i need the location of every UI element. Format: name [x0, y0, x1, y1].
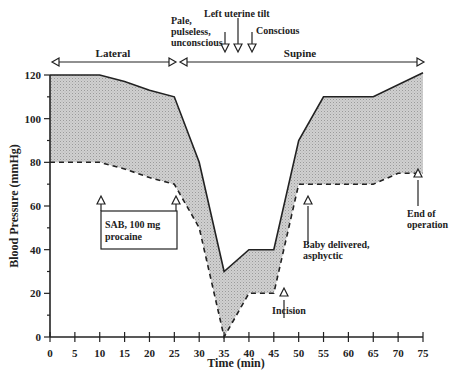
baby-label-2: asphyctic [303, 250, 344, 261]
conscious-label: Conscious [256, 25, 299, 36]
y-tick-label: 80 [30, 156, 42, 168]
x-tick-label: 65 [368, 347, 380, 359]
y-tick-label: 60 [30, 200, 42, 212]
y-tick-label: 40 [30, 244, 42, 256]
x-tick-label: 75 [418, 347, 430, 359]
x-tick-label: 0 [47, 347, 53, 359]
pale-label-3: unconscious [171, 37, 223, 48]
x-tick-label: 20 [144, 347, 156, 359]
end-label-1: End of [407, 208, 436, 219]
position-spans [52, 58, 424, 66]
tilt-label: Left uterine tilt [204, 8, 270, 19]
incision-label: Incision [272, 305, 306, 316]
x-tick-label: 60 [343, 347, 355, 359]
end-label-2: operation [407, 219, 449, 230]
x-tick-label: 50 [293, 347, 305, 359]
y-axis-label: Blood Pressure (mmHg) [7, 144, 21, 268]
y-tick-label: 0 [36, 331, 42, 343]
x-tick-label: 30 [194, 347, 206, 359]
x-tick-label: 55 [318, 347, 330, 359]
pale-label-2: pulseless, [171, 26, 211, 37]
y-tick-label: 100 [25, 113, 42, 125]
sab-label-1: SAB, 100 mg [105, 219, 160, 230]
x-tick-label: 70 [393, 347, 405, 359]
x-tick-label: 45 [268, 347, 280, 359]
x-axis-label: Time (min) [207, 356, 264, 370]
supine-label: Supine [284, 47, 317, 59]
x-tick-label: 25 [169, 347, 181, 359]
x-tick-label: 5 [72, 347, 78, 359]
plot-fill [50, 73, 423, 337]
top-event-arrows [221, 18, 256, 52]
lateral-label: Lateral [96, 47, 131, 59]
blood-pressure-chart: 0510152025303540455055606570750204060801… [0, 0, 453, 378]
y-tick-label: 20 [30, 287, 42, 299]
y-tick-label: 120 [25, 69, 42, 81]
x-tick-label: 10 [94, 347, 106, 359]
x-tick-label: 15 [119, 347, 131, 359]
baby-label-1: Baby delivered, [303, 239, 370, 250]
pale-label-1: Pale, [171, 15, 192, 26]
sab-label-2: procaine [105, 231, 143, 242]
